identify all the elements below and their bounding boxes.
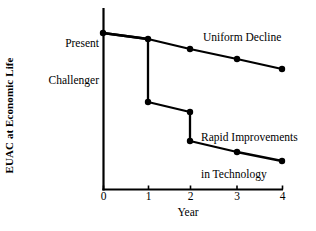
- x-tick-label-4: 4: [273, 190, 293, 202]
- annotation-present-challenger-line2: Challenger: [33, 74, 99, 86]
- y-axis-title: EUAC at Economic Life: [4, 0, 26, 231]
- annotation-uniform-decline: Uniform Decline: [203, 31, 281, 43]
- x-axis-title: Year: [138, 206, 238, 218]
- annotation-rapid-improvements-line2: in Technology: [201, 168, 298, 180]
- x-tick-label-2: 2: [181, 190, 201, 202]
- annotation-present-challenger-line1: Present: [33, 37, 99, 49]
- data-point: [234, 56, 240, 62]
- x-tick-label-3: 3: [227, 190, 247, 202]
- data-point: [187, 109, 193, 115]
- annotation-present-challenger: Present Challenger: [33, 12, 99, 111]
- annotation-rapid-improvements-line1: Rapid Improvements: [201, 131, 298, 143]
- data-point: [279, 66, 285, 72]
- x-tick-label-1: 1: [139, 190, 159, 202]
- chart-figure: EUAC at Economic Life Present Challenger…: [0, 0, 316, 231]
- data-point: [187, 138, 193, 144]
- data-point: [187, 46, 193, 52]
- data-point: [145, 99, 151, 105]
- x-tick-label-0: 0: [94, 190, 114, 202]
